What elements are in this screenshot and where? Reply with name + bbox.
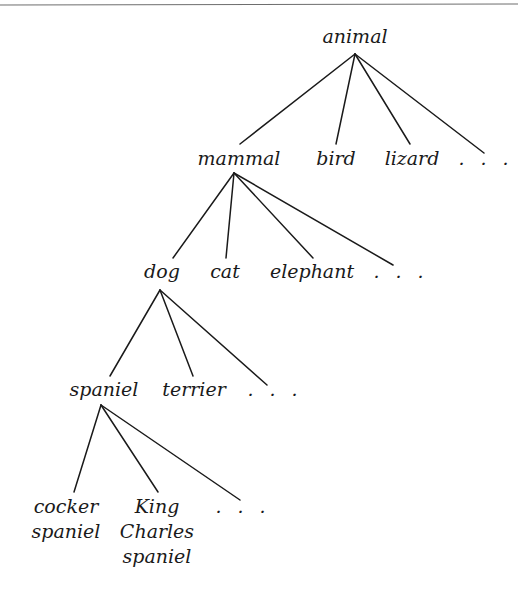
edge-animal-to-mammal <box>240 54 355 144</box>
node-label-line: spaniel <box>123 545 192 567</box>
edge-mammal-to-cat <box>226 173 234 258</box>
node-label-line: Charles <box>120 520 195 542</box>
edge-animal-to-animal-more <box>355 54 484 153</box>
node-label-line: lizard <box>385 147 440 169</box>
edge-mammal-to-elephant <box>234 173 313 258</box>
node-label-line: cat <box>210 260 240 282</box>
node-label-line: King <box>134 495 180 517</box>
node-label-line: . . . <box>458 147 513 169</box>
edge-mammal-to-mammal-more <box>234 173 393 265</box>
node-label-line: spaniel <box>32 520 101 542</box>
node-cocker-spaniel: cockerspaniel <box>32 495 101 542</box>
tree-nodes: animalmammalbirdlizard. . .dogcatelephan… <box>32 25 514 567</box>
node-lizard: lizard <box>385 147 440 169</box>
node-label-line: animal <box>322 25 387 47</box>
node-dog-more: . . . <box>247 378 302 400</box>
node-terrier: terrier <box>162 378 227 400</box>
edge-animal-to-lizard <box>355 54 410 144</box>
node-dog: dog <box>144 260 180 282</box>
node-label-line: dog <box>144 260 180 282</box>
taxonomy-tree-diagram: animalmammalbirdlizard. . .dogcatelephan… <box>0 0 518 604</box>
node-spaniel: spaniel <box>70 378 139 400</box>
node-elephant: elephant <box>270 260 355 282</box>
node-animal: animal <box>322 25 387 47</box>
node-label-line: . . . <box>373 260 428 282</box>
node-animal-more: . . . <box>458 147 513 169</box>
edge-spaniel-to-spaniel-more <box>101 405 240 500</box>
edge-dog-to-spaniel <box>110 290 160 376</box>
node-label-line: . . . <box>247 378 302 400</box>
node-king-charles-spaniel: KingCharlesspaniel <box>120 495 195 567</box>
node-label-line: elephant <box>270 260 355 282</box>
top-rule-divider <box>0 4 518 5</box>
node-label-line: terrier <box>162 378 227 400</box>
node-spaniel-more: . . . <box>215 495 270 517</box>
node-bird: bird <box>316 147 355 169</box>
node-mammal: mammal <box>198 147 281 169</box>
node-label-line: mammal <box>198 147 281 169</box>
edge-mammal-to-dog <box>173 173 234 258</box>
edge-spaniel-to-cocker-spaniel <box>74 405 101 492</box>
edge-spaniel-to-king-charles-spaniel <box>101 405 158 492</box>
edge-dog-to-dog-more <box>160 290 267 385</box>
node-cat: cat <box>210 260 240 282</box>
node-label-line: spaniel <box>70 378 139 400</box>
edge-dog-to-terrier <box>160 290 193 376</box>
node-mammal-more: . . . <box>373 260 428 282</box>
node-label-line: cocker <box>34 495 100 517</box>
node-label-line: bird <box>316 147 355 169</box>
node-label-line: . . . <box>215 495 270 517</box>
